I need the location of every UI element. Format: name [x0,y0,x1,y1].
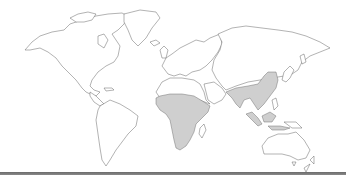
madagascar [199,124,206,138]
new-guinea [284,122,302,128]
caribbean-islands [104,88,114,91]
bottom-divider [0,172,346,175]
iceland [150,40,160,46]
indonesia-highlight [246,112,290,130]
philippines [272,98,278,110]
sub-saharan-africa-highlight [156,94,210,150]
british-isles [160,46,168,58]
north-america [25,13,128,96]
south-america [96,100,138,166]
new-zealand [304,156,314,172]
world-map [0,0,346,172]
tasmania [292,162,296,166]
australia [262,132,310,160]
